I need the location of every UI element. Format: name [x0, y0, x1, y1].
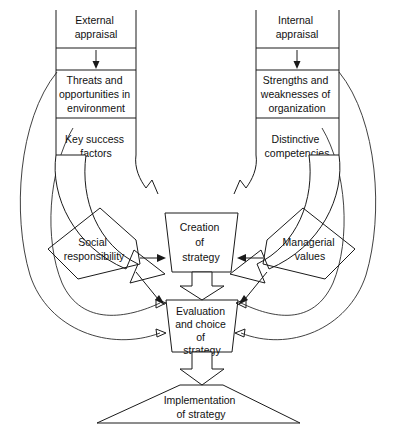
- external-to-threats-arrow: [93, 50, 100, 69]
- internal-to-strengths-arrow: [294, 50, 301, 69]
- creation-of-strategy-label: Creation of strategy: [180, 221, 223, 263]
- arrowhead-right-outer: [235, 329, 245, 337]
- left-funnel-arrow: [55, 155, 165, 283]
- strategy-formulation-diagram: External appraisal Threats and opportuni…: [0, 0, 395, 439]
- right-funnel-arrow: [230, 155, 340, 283]
- left-funnel-notch: [136, 155, 158, 194]
- threats-opportunities-label: Threats and opportunities in environment: [59, 74, 133, 114]
- evaluation-to-implementation-block-arrow: [180, 352, 224, 385]
- external-appraisal-label: External appraisal: [75, 14, 118, 40]
- evaluation-and-choice-label: Evaluation and choice of strategy: [175, 305, 229, 356]
- internal-appraisal-label: Internal appraisal: [276, 14, 319, 40]
- right-funnel-notch: [234, 155, 256, 194]
- creation-to-evaluation-block-arrow: [180, 272, 224, 300]
- diagram-canvas: External appraisal Threats and opportuni…: [0, 0, 395, 439]
- arrowhead-left-outer: [156, 329, 166, 337]
- strengths-weaknesses-label: Strengths and weaknesses of organization: [260, 74, 333, 114]
- implementation-of-strategy-label: Implementation of strategy: [164, 394, 239, 420]
